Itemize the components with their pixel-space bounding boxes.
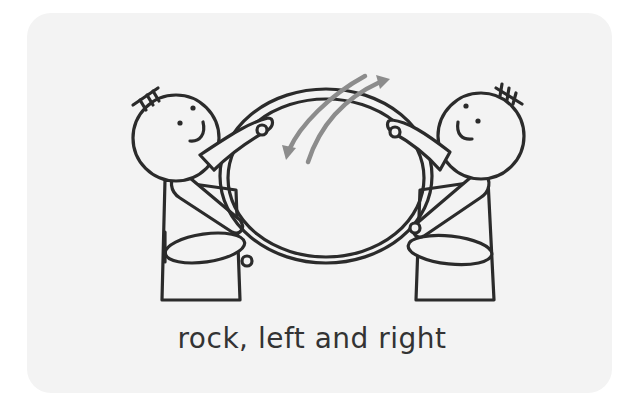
right-eye-icon: [463, 103, 468, 108]
caption-text: rock, left and right: [0, 322, 624, 355]
left-eye-icon: [190, 105, 195, 110]
right-figure: [407, 84, 524, 300]
hoop: [220, 89, 432, 263]
left-eye-icon: [177, 120, 182, 125]
right-eye-icon: [475, 118, 480, 123]
